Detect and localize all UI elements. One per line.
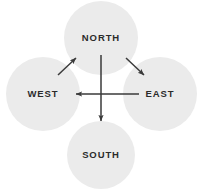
node-west[interactable]: WEST [6, 57, 80, 131]
node-north-label: NORTH [82, 32, 120, 43]
node-east-label: EAST [146, 88, 175, 99]
diagram-canvas: NORTH WEST EAST SOUTH [0, 0, 203, 193]
node-west-label: WEST [27, 88, 58, 99]
node-south-label: SOUTH [82, 149, 120, 160]
node-south[interactable]: SOUTH [67, 121, 135, 189]
compass-directions-diagram: NORTH WEST EAST SOUTH [0, 0, 203, 193]
